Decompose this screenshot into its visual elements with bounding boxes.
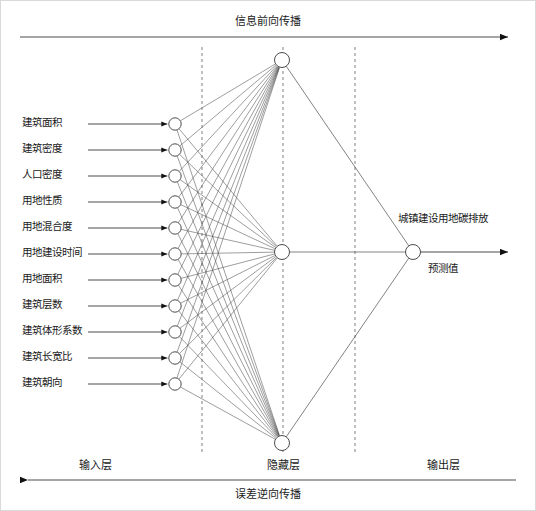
output-node[interactable] [406,245,421,260]
input-node-3[interactable] [169,170,181,182]
input-node-4[interactable] [169,196,181,208]
connection-in8-h1 [177,67,278,300]
connection-in4-h3 [178,208,279,436]
input-node-1[interactable] [169,118,181,130]
connection-h3-out [286,258,409,437]
input-node-8[interactable] [169,300,181,312]
input-node-7[interactable] [169,274,181,286]
hidden-layer-label: 隐藏层 [267,460,300,471]
connection-in6-h2 [181,252,274,254]
connection-in5-h3 [178,234,279,436]
connection-in9-h1 [177,67,279,326]
input-feature-label-7: 用地面积 [22,274,62,285]
input-node-11[interactable] [169,378,181,390]
connection-in1-h3 [177,130,279,436]
input-layer-label: 输入层 [79,460,112,471]
hidden-node-2[interactable] [275,245,290,260]
connection-in1-h1 [180,64,275,121]
forward-propagation-label: 信息前向传播 [235,16,301,27]
input-node-9[interactable] [169,326,181,338]
backward-propagation-label: 误差逆向传播 [235,489,301,500]
input-feature-label-10: 建筑长宽比 [22,352,72,363]
connection-in3-h1 [179,66,276,172]
input-hidden-connections [177,64,280,439]
connection-in6-h1 [178,67,278,249]
input-feature-label-11: 建筑朝向 [22,378,62,389]
input-node-6[interactable] [169,248,181,260]
output-variable-label: 城镇建设用地碳排放 [398,214,488,225]
input-node-2[interactable] [169,144,181,156]
input-feature-label-3: 人口密度 [22,170,62,181]
output-layer-label: 输出层 [427,460,460,471]
input-feature-label-8: 建筑层数 [22,300,62,311]
hidden-node-1[interactable] [275,53,290,68]
input-node-5[interactable] [169,222,181,234]
connection-in8-h3 [179,311,277,437]
input-node-10[interactable] [169,352,181,364]
connection-in8-h2 [181,256,275,304]
input-feature-label-4: 用地性质 [22,196,62,207]
connection-in5-h1 [178,67,277,223]
connection-in7-h2 [181,254,274,278]
connection-in3-h2 [180,180,275,248]
connection-in1-h2 [179,129,277,246]
input-feature-label-5: 用地混合度 [22,222,72,233]
connection-in2-h1 [180,65,276,146]
input-feature-label-2: 建筑密度 [22,144,62,155]
output-prediction-label: 预测值 [428,264,458,275]
neural-network-diagram: 信息前向传播 误差逆向传播 输入层 隐藏层 输出层 城镇建设用地碳排放 预测值 … [0,0,536,511]
connection-in2-h2 [179,154,276,246]
connection-h1-out [286,66,409,246]
input-feature-label-6: 用地建设时间 [22,248,82,259]
input-feature-label-9: 建筑体形系数 [22,326,82,337]
connection-in4-h1 [179,66,277,197]
hidden-node-3[interactable] [275,436,290,451]
connection-in9-h2 [180,257,276,328]
hidden-output-connections [286,66,409,437]
connection-in9-h3 [179,336,276,437]
input-feature-label-1: 建筑面积 [22,118,62,129]
